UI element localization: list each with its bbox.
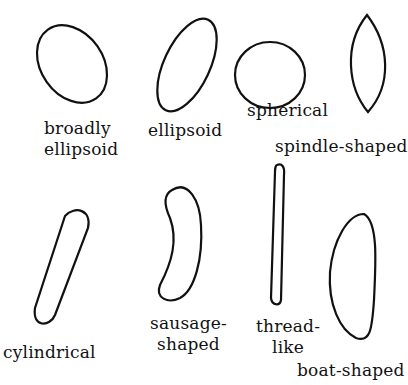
label-line: boat-shaped bbox=[297, 360, 405, 381]
sausage-shaped-shape bbox=[159, 187, 201, 300]
label-spherical: spherical bbox=[247, 100, 328, 121]
label-line: shaped bbox=[150, 334, 227, 355]
label-line: like bbox=[256, 337, 320, 358]
label-line: spherical bbox=[247, 100, 328, 121]
broadly-ellipsoid-shape bbox=[23, 12, 122, 116]
label-line: thread- bbox=[256, 316, 320, 337]
label-line: ellipsoid bbox=[148, 120, 222, 141]
label-spindle-shaped: spindle-shaped bbox=[275, 136, 408, 157]
label-line: cylindrical bbox=[3, 342, 96, 363]
label-line: spindle-shaped bbox=[275, 136, 408, 157]
label-line: ellipsoid bbox=[44, 139, 118, 160]
label-boat-shaped: boat-shaped bbox=[297, 360, 405, 381]
label-thread-like: thread- like bbox=[256, 316, 320, 358]
spindle-shaped-shape bbox=[351, 15, 385, 112]
boat-shaped-shape bbox=[330, 214, 376, 339]
label-cylindrical: cylindrical bbox=[3, 342, 96, 363]
spherical-shape bbox=[235, 42, 305, 108]
thread-like-shape bbox=[271, 164, 284, 304]
label-line: broadly bbox=[44, 118, 118, 139]
label-sausage-shaped: sausage- shaped bbox=[150, 313, 227, 355]
ellipsoid-shape bbox=[145, 10, 229, 120]
label-line: sausage- bbox=[150, 313, 227, 334]
label-ellipsoid: ellipsoid bbox=[148, 120, 222, 141]
cylindrical-shape bbox=[35, 210, 89, 323]
label-broadly-ellipsoid: broadly ellipsoid bbox=[44, 118, 118, 160]
